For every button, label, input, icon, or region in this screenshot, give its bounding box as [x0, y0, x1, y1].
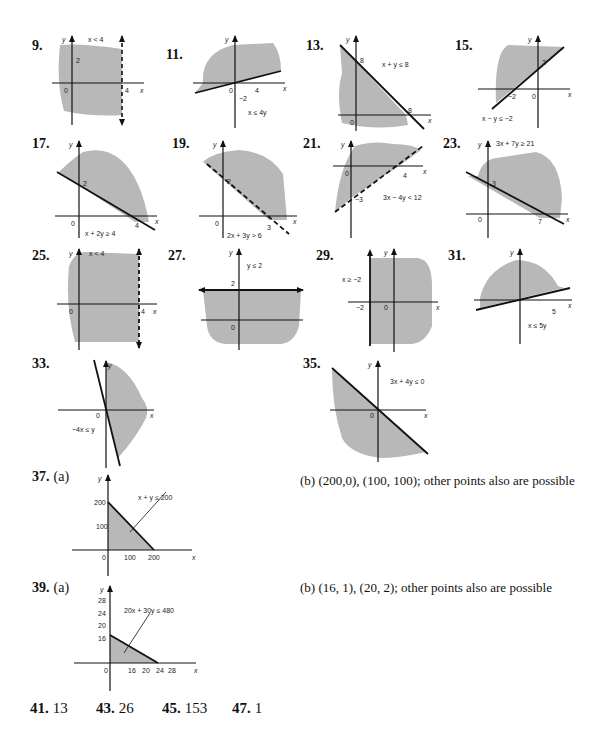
svg-text:8: 8 — [360, 57, 364, 64]
graph-27: y y ≤ 2 2 0 — [195, 246, 305, 351]
inequality-label: x < 4 — [89, 250, 104, 257]
answer-39b: (b) (16, 1), (20, 2); other points also … — [300, 580, 552, 596]
problem-number-19: 19. — [172, 136, 190, 152]
graph-13: y x 8 0 8 x + y ≤ 8 — [336, 33, 436, 133]
graph-11: y x 0 4 −2 x ≤ 4y — [193, 33, 288, 128]
svg-text:0: 0 — [96, 412, 100, 419]
svg-text:−2: −2 — [356, 304, 364, 311]
y-axis-label: y — [61, 36, 66, 44]
svg-text:8: 8 — [408, 107, 412, 114]
problem-number-37: 37.(a) — [32, 469, 69, 485]
inequality-label: 3x − 4y < 12 — [383, 194, 422, 202]
svg-text:0: 0 — [64, 87, 68, 94]
graph-39: y x 28 24 20 16 0 16 20 24 28 20x + 30y … — [72, 583, 202, 698]
answer-43: 43.26 — [96, 700, 134, 717]
svg-text:0: 0 — [69, 308, 73, 315]
svg-text:x: x — [154, 218, 159, 225]
svg-text:2: 2 — [76, 57, 80, 64]
svg-text:16: 16 — [128, 667, 136, 674]
graph-33: y x 0 −4x ≤ y — [58, 358, 158, 468]
svg-text:4: 4 — [403, 172, 407, 179]
svg-text:x: x — [149, 412, 154, 419]
svg-text:100: 100 — [124, 554, 136, 561]
inequality-label: 20x + 30y ≤ 480 — [124, 607, 174, 615]
answer-37b: (b) (200,0), (100, 100); other points al… — [300, 473, 575, 489]
svg-text:0: 0 — [384, 304, 388, 311]
graph-29: y x x ≥ −2 −2 0 — [348, 246, 443, 351]
inequality-label: 3x + 7y ≥ 21 — [496, 140, 534, 148]
svg-text:−3: −3 — [355, 196, 363, 203]
svg-text:x: x — [427, 117, 432, 124]
svg-text:0: 0 — [71, 220, 75, 227]
svg-text:y: y — [340, 141, 345, 149]
svg-text:y: y — [345, 36, 350, 44]
svg-text:4: 4 — [255, 87, 259, 94]
svg-text:28: 28 — [98, 597, 106, 604]
svg-text:200: 200 — [94, 499, 106, 506]
problem-number-35: 35. — [303, 356, 321, 372]
svg-text:7: 7 — [538, 218, 542, 225]
problem-number-39: 39.(a) — [32, 580, 69, 596]
svg-text:20: 20 — [98, 622, 106, 629]
svg-text:4: 4 — [135, 222, 139, 229]
problem-number-33: 33. — [32, 356, 50, 372]
answer-45: 45.153 — [162, 700, 207, 717]
answer-41: 41.13 — [30, 700, 68, 717]
inequality-label: −4x ≤ y — [72, 426, 95, 434]
svg-text:24: 24 — [98, 610, 106, 617]
svg-text:24: 24 — [156, 667, 164, 674]
graph-25: y x x < 4 0 4 — [55, 246, 160, 351]
svg-text:4: 4 — [141, 308, 145, 315]
problem-number-31: 31. — [448, 248, 466, 264]
svg-text:0: 0 — [350, 119, 354, 126]
problem-number-11: 11. — [166, 47, 183, 63]
svg-text:0: 0 — [231, 324, 235, 331]
problem-number-29: 29. — [316, 248, 334, 264]
svg-text:x: x — [423, 412, 428, 419]
svg-text:y: y — [367, 361, 372, 369]
problem-number-27: 27. — [168, 248, 186, 264]
svg-text:0: 0 — [229, 87, 233, 94]
problem-number-9: 9. — [32, 38, 43, 54]
inequality-label: y ≤ 2 — [247, 262, 262, 270]
svg-text:0: 0 — [104, 667, 108, 674]
svg-text:y: y — [212, 141, 217, 149]
svg-text:x: x — [191, 554, 196, 561]
svg-text:x: x — [193, 667, 198, 674]
svg-text:x: x — [292, 218, 297, 225]
svg-text:20: 20 — [142, 667, 150, 674]
inequality-label: x + y ≤ 8 — [382, 61, 409, 69]
graph-35: y x 0 3x + 4y ≤ 0 — [330, 358, 440, 468]
svg-text:2: 2 — [231, 280, 235, 287]
svg-text:0: 0 — [215, 220, 219, 227]
svg-text:y: y — [383, 249, 388, 257]
svg-text:2: 2 — [542, 59, 546, 66]
svg-text:y: y — [224, 36, 229, 44]
svg-text:x: x — [567, 91, 572, 98]
svg-text:−2: −2 — [508, 93, 516, 100]
inequality-label: x < 4 — [88, 36, 103, 43]
graph-17: y x 2 0 4 x + 2y ≥ 4 — [55, 138, 160, 238]
svg-text:100: 100 — [96, 523, 108, 530]
svg-text:−2: −2 — [239, 95, 247, 102]
inequality-label: x ≥ −2 — [342, 276, 361, 283]
svg-text:2: 2 — [83, 180, 87, 187]
svg-text:2: 2 — [227, 178, 231, 185]
svg-text:x: x — [282, 85, 287, 92]
inequality-label: x + y ≤ 200 — [138, 494, 172, 502]
problem-number-13: 13. — [306, 38, 324, 54]
graph-15: y x 2 −2 0 x − y ≤ −2 — [478, 33, 573, 128]
svg-text:0: 0 — [102, 554, 106, 561]
problem-number-23: 23. — [443, 136, 461, 152]
inequality-label: x ≤ 5y — [528, 322, 547, 330]
svg-text:5: 5 — [552, 308, 556, 315]
svg-text:x: x — [565, 216, 570, 223]
problem-number-21: 21. — [303, 136, 321, 152]
inequality-label: x + 2y ≥ 4 — [85, 230, 116, 238]
inequality-label: 2x + 3y > 6 — [227, 232, 262, 240]
graph-31: y x 5 x ≤ 5y — [474, 246, 574, 346]
answer-47: 47.1 — [232, 700, 262, 717]
svg-text:3: 3 — [492, 180, 496, 187]
svg-text:0: 0 — [478, 216, 482, 223]
svg-text:x: x — [435, 304, 440, 311]
